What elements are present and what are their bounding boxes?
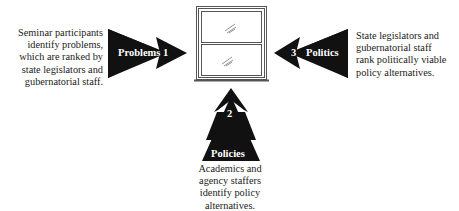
problems-description: Seminar participants identify problems, … [2,27,103,88]
politics-description: State legislators and gubernatorial staf… [356,30,459,79]
politics-arrow-label: Politics [306,47,339,58]
window-icon [194,7,269,81]
policies-description-line: identify policy [190,187,270,199]
politics-description-line: policy alternatives. [356,67,459,79]
problems-description-line: gubernatorial staff. [2,76,103,88]
politics-description-line: State legislators and [356,30,459,42]
politics-description-line: rank politically viable [356,54,459,66]
problems-description-line: which are ranked by [2,51,103,63]
policies-arrow-number: 2 [227,108,232,119]
problems-description-line: state legislators and [2,64,103,76]
politics-description-line: gubernatorial staff [356,42,459,54]
problems-description-line: Seminar participants [2,27,103,39]
problems-description-line: identify problems, [2,39,103,51]
problems-arrow-label: Problems 1 [118,47,168,58]
policies-arrow-label: Policies [211,148,245,159]
policies-description-line: Academics and [190,163,270,175]
policies-description-line: alternatives. [190,200,270,211]
policies-description-line: agency staffers [190,175,270,187]
policies-description: Academics and agency staffers identify p… [190,163,270,211]
politics-arrow-number: 3 [291,47,296,58]
